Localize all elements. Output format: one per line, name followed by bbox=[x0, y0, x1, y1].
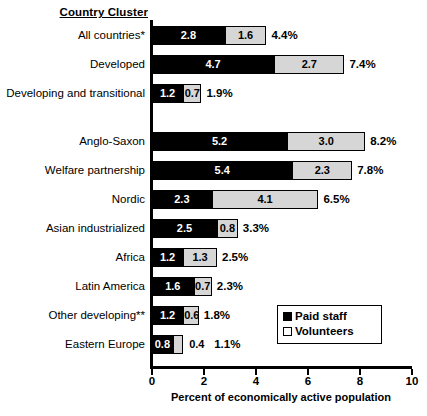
bar-row-label: Other developing** bbox=[0, 306, 145, 325]
paid-staff-swatch-icon bbox=[283, 312, 292, 321]
bar-segment-volunteers: 0.8 bbox=[217, 219, 238, 238]
bar-stack: 4.72.77.4% bbox=[152, 55, 404, 74]
legend-item-paid-staff: Paid staff bbox=[283, 309, 376, 324]
legend-item-volunteers: Volunteers bbox=[283, 324, 376, 339]
x-axis-title: Percent of economically active populatio… bbox=[150, 391, 412, 403]
bar-total-label: 4.4% bbox=[271, 26, 297, 45]
bar-segment-volunteers: 4.1 bbox=[212, 190, 319, 209]
bar-segment-volunteers: 0.6 bbox=[183, 306, 199, 325]
bar-segment-paid-staff: 2.8 bbox=[152, 26, 225, 45]
bar-total-label: 2.3% bbox=[217, 277, 243, 296]
bar-total-label: 3.3% bbox=[243, 219, 269, 238]
bar-segment-paid-staff: 1.2 bbox=[152, 306, 183, 325]
x-axis-tick-label: 4 bbox=[241, 375, 271, 387]
x-axis-tick-label: 0 bbox=[137, 375, 167, 387]
bar-segment-volunteers: 2.3 bbox=[292, 161, 352, 180]
bar-segment-volunteers-label: 0.4 bbox=[189, 335, 204, 354]
bar-total-label: 1.1% bbox=[214, 335, 240, 354]
bar-stack: 1.60.72.3% bbox=[152, 277, 272, 296]
bar-row-label: Asian industrialized bbox=[0, 219, 145, 238]
legend-label-paid-staff: Paid staff bbox=[295, 309, 347, 324]
bar-segment-volunteers: 0.7 bbox=[183, 84, 201, 103]
bar-stack: 2.34.16.5% bbox=[152, 190, 378, 209]
bar-stack: 1.20.71.9% bbox=[152, 84, 261, 103]
bar-segment-volunteers: 0.7 bbox=[194, 277, 212, 296]
bar-segment-volunteers bbox=[173, 335, 183, 354]
bar-segment-volunteers: 1.6 bbox=[225, 26, 267, 45]
bar-stack: 5.42.37.8% bbox=[152, 161, 412, 180]
bar-total-label: 8.2% bbox=[370, 132, 396, 151]
bar-total-label: 7.4% bbox=[349, 55, 375, 74]
bar-stack: 2.81.64.4% bbox=[152, 26, 326, 45]
x-axis-line bbox=[150, 366, 412, 369]
bar-row-label: Developed bbox=[0, 55, 145, 74]
stacked-bar-chart: Country Cluster All countries*2.81.64.4%… bbox=[0, 0, 427, 416]
bar-total-label: 2.5% bbox=[222, 248, 248, 267]
chart-legend: Paid staff Volunteers bbox=[277, 305, 382, 344]
bar-row-label: Developing and transitional bbox=[0, 84, 145, 103]
bar-segment-paid-staff: 2.3 bbox=[152, 190, 212, 209]
x-axis-tick-label: 8 bbox=[345, 375, 375, 387]
bar-segment-paid-staff: 5.4 bbox=[152, 161, 292, 180]
bar-segment-paid-staff: 1.2 bbox=[152, 84, 183, 103]
bar-stack: 2.50.83.3% bbox=[152, 219, 298, 238]
bar-segment-paid-staff: 1.6 bbox=[152, 277, 194, 296]
bar-segment-paid-staff: 4.7 bbox=[152, 55, 274, 74]
bar-row-label: All countries* bbox=[0, 26, 145, 45]
bar-row-label: Eastern Europe bbox=[0, 335, 145, 354]
bar-row-label: Nordic bbox=[0, 190, 145, 209]
bar-stack: 0.80.41.1% bbox=[152, 335, 269, 354]
bar-total-label: 7.8% bbox=[357, 161, 383, 180]
x-axis-tick-label: 6 bbox=[293, 375, 323, 387]
bar-segment-paid-staff: 0.8 bbox=[152, 335, 173, 354]
bar-total-label: 1.9% bbox=[206, 84, 232, 103]
legend-label-volunteers: Volunteers bbox=[295, 324, 354, 339]
x-axis-tick-label: 2 bbox=[189, 375, 219, 387]
bar-stack: 1.20.61.8% bbox=[152, 306, 259, 325]
bar-total-label: 6.5% bbox=[323, 190, 349, 209]
bar-row-label: Africa bbox=[0, 248, 145, 267]
bar-segment-volunteers: 1.3 bbox=[183, 248, 217, 267]
bar-segment-volunteers: 2.7 bbox=[274, 55, 344, 74]
bar-row-label: Anglo-Saxon bbox=[0, 132, 145, 151]
x-axis-tick-label: 10 bbox=[397, 375, 427, 387]
bar-total-label: 1.8% bbox=[204, 306, 230, 325]
bar-segment-volunteers: 3.0 bbox=[287, 132, 365, 151]
bar-segment-paid-staff: 2.5 bbox=[152, 219, 217, 238]
bar-row-label: Latin America bbox=[0, 277, 145, 296]
bar-stack: 1.21.32.5% bbox=[152, 248, 277, 267]
bar-segment-paid-staff: 1.2 bbox=[152, 248, 183, 267]
bar-row-label: Welfare partnership bbox=[0, 161, 145, 180]
bar-stack: 5.23.08.2% bbox=[152, 132, 425, 151]
country-cluster-header: Country Cluster bbox=[0, 6, 148, 18]
bar-segment-paid-staff: 5.2 bbox=[152, 132, 287, 151]
volunteers-swatch-icon bbox=[283, 327, 292, 336]
